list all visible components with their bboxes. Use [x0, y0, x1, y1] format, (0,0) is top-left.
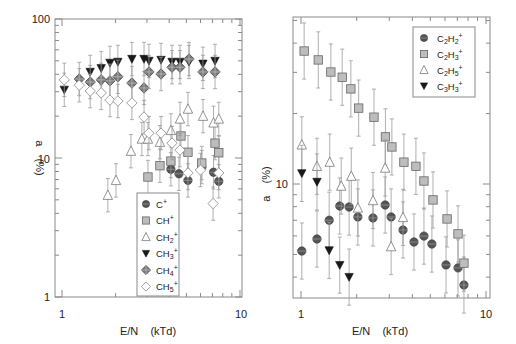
- left-point-ch5-plus: [96, 88, 106, 98]
- left-y-axis-label: a (%): [34, 140, 46, 175]
- left-point-ch2-plus: [111, 175, 120, 184]
- left-point-ch5-plus: [74, 80, 84, 90]
- right-point-c2h3-plus: [443, 215, 451, 223]
- right-point-c3h3-plus: [325, 247, 333, 255]
- left-ytick-label-100: 100: [32, 13, 50, 25]
- right-point-c2h3-plus: [354, 104, 362, 112]
- right-point-c2h3-plus: [370, 113, 378, 121]
- right-point-c2h3-plus: [314, 56, 322, 64]
- figure: 1 10 1 10 100 E/N (kTd) a (%) C+CH+CH2+C…: [0, 0, 516, 344]
- left-point-ch5-plus: [139, 112, 149, 122]
- right-x-axis-label: E/N (kTd): [352, 325, 408, 337]
- left-point-ch5-plus: [85, 86, 95, 96]
- right-point-c2h5-plus: [386, 241, 395, 250]
- right-point-c2h5-plus: [325, 157, 334, 166]
- left-x-axis-label: E/N (kTd): [120, 325, 176, 337]
- left-point-ch-plus: [211, 139, 219, 147]
- right-y-axis-label: a (%): [260, 166, 272, 201]
- right-point-c2h3-plus: [420, 177, 428, 185]
- left-point-ch2-plus: [198, 111, 207, 120]
- left-point-ch5-plus: [208, 198, 218, 208]
- left-point-ch5-plus: [183, 168, 193, 178]
- right-panel: 1 10 10 E/N (kTd) a (%) C2H2+C2H3+C2H5+C…: [260, 17, 492, 337]
- right-point-c3h3-plus: [313, 178, 321, 186]
- left-point-ch5-plus: [156, 128, 166, 138]
- right-point-c2h5-plus: [347, 171, 356, 180]
- left-ytick-label-1: 1: [44, 291, 50, 303]
- left-xtick-label-1: 1: [59, 308, 65, 320]
- right-point-c2h5-plus: [398, 212, 407, 221]
- right-point-c3h3-plus: [336, 261, 344, 269]
- left-point-ch-plus: [167, 157, 175, 165]
- right-point-c2h5-plus: [337, 181, 346, 190]
- right-point-c2h5-plus: [368, 195, 377, 204]
- right-point-c2h5-plus: [380, 163, 389, 172]
- left-point-ch-plus: [184, 148, 192, 156]
- right-point-c2h3-plus: [338, 73, 346, 81]
- left-point-ch2-plus: [126, 146, 135, 155]
- right-ytick-label-10: 10: [276, 178, 288, 190]
- right-legend: C2H2+C2H3+C2H5+C3H3+: [413, 27, 475, 97]
- left-point-ch-plus: [215, 149, 223, 157]
- left-point-ch2-plus: [175, 114, 184, 123]
- right-point-c2h3-plus: [460, 259, 468, 267]
- right-point-c2h3-plus: [412, 162, 420, 170]
- left-point-ch5-plus: [127, 98, 137, 108]
- right-point-c2h3-plus: [454, 230, 462, 238]
- left-point-ch2-plus: [103, 190, 112, 199]
- left-legend-symbol-ch-plus: [142, 217, 149, 224]
- right-point-c2h3-plus: [327, 68, 335, 76]
- right-point-c2h3-plus: [429, 196, 437, 204]
- right-legend-symbol-c2h3-plus: [420, 50, 427, 57]
- right-point-c2h3-plus: [400, 158, 408, 166]
- right-point-c2h3-plus: [388, 143, 396, 151]
- right-xtick-label-1: 1: [298, 308, 304, 320]
- left-point-ch2-plus: [183, 104, 192, 113]
- left-point-ch-plus: [156, 162, 164, 170]
- left-point-ch5-plus: [167, 138, 177, 148]
- right-point-c2h5-plus: [353, 203, 362, 212]
- left-point-ch5-plus: [113, 96, 123, 106]
- left-point-ch2-plus: [214, 114, 223, 123]
- left-point-ch2-plus: [155, 137, 164, 146]
- right-point-c3h3-plus: [298, 170, 306, 178]
- right-point-c3h3-plus: [345, 273, 353, 281]
- left-point-ch-plus: [144, 173, 152, 181]
- left-point-ch3-plus: [128, 55, 136, 63]
- left-point-ch5-plus: [59, 75, 69, 85]
- right-point-c2h3-plus: [300, 47, 308, 55]
- left-xtick-label-10: 10: [235, 308, 247, 320]
- left-legend: C+CH+CH2+CH3+CH4+CH5+: [137, 193, 179, 296]
- right-xtick-label-10: 10: [480, 308, 492, 320]
- left-panel: 1 10 1 10 100 E/N (kTd) a (%) C+CH+CH2+C…: [32, 13, 247, 337]
- right-point-c2h3-plus: [347, 85, 355, 93]
- left-point-ch5-plus: [144, 128, 154, 138]
